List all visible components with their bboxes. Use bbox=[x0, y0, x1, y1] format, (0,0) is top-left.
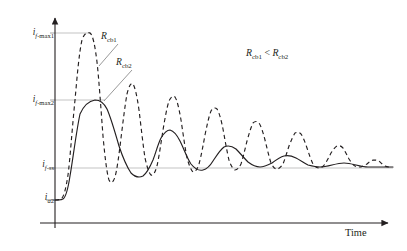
x-axis-label: Time bbox=[345, 228, 367, 238]
y-axis-ticks bbox=[46, 33, 55, 200]
plot-area bbox=[0, 0, 407, 251]
y-tick-label-if-ss: if-ss bbox=[8, 160, 54, 171]
y-tick-label-if-max1: if-max1 bbox=[8, 28, 54, 39]
inequality-annotation: Rcb1 < Rcb2 bbox=[246, 48, 288, 61]
leader-line-rcb2 bbox=[104, 70, 132, 101]
y-tick-label-ia2: ia2 bbox=[8, 193, 54, 204]
curve-label-rcb2: Rcb2 bbox=[116, 57, 132, 70]
curve-label-rcb1: Rcb1 bbox=[101, 31, 117, 44]
curve-rcb2-solid bbox=[55, 100, 393, 200]
curve-rcb1-dashed bbox=[55, 33, 391, 200]
y-tick-label-if-max2: if-max2 bbox=[8, 95, 54, 106]
figure-container: if-max1 if-max2 if-ss ia2 Rcb1 Rcb2 Rcb1… bbox=[0, 0, 407, 251]
